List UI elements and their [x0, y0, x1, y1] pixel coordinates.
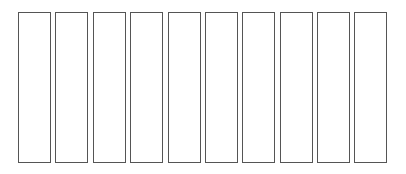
box-9 [317, 12, 350, 163]
box-4 [130, 12, 163, 163]
box-1 [18, 12, 51, 163]
box-8 [280, 12, 313, 163]
box-2 [55, 12, 88, 163]
box-row [18, 12, 388, 163]
box-3 [93, 12, 126, 163]
box-7 [242, 12, 275, 163]
box-10 [354, 12, 387, 163]
box-6 [205, 12, 238, 163]
box-5 [168, 12, 201, 163]
